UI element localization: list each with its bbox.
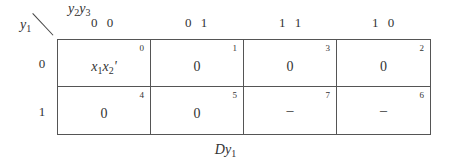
cell-value: 0 [151,106,243,122]
col-header-00: 0 0 [57,15,150,31]
caption-main: D [215,142,225,157]
row-variable-label: y1 [20,17,31,34]
kmap-cell-2: 2 0 [337,40,430,87]
cell-index: 0 [140,43,145,53]
col-header-10: 1 0 [338,15,431,31]
cell-index: 7 [326,90,331,100]
cell-value: 0 [58,106,150,122]
cell-index: 6 [420,90,425,100]
row-var-sub: 1 [26,23,31,34]
kmap-cell-0: 0 x1x2' [58,40,151,87]
corner-diagonal-line [32,13,53,36]
kmap-cell-1: 1 0 [151,40,244,87]
cell-value: 0 [151,59,243,75]
cell-value: 0 [244,59,336,75]
kmap-cell-5: 5 0 [151,87,244,134]
caption-sub: 1 [231,148,236,159]
cell-index: 2 [420,43,425,53]
cell-index: 5 [233,90,238,100]
kmap-cell-4: 4 0 [58,87,151,134]
kmap-cell-7: 7 – [244,87,337,134]
cell-value-dont-care: – [337,103,430,119]
cell-index: 4 [140,90,145,100]
kmap-caption: Dy1 [0,142,451,159]
kmap-cell-6: 6 – [337,87,430,134]
cell-value: x1x2' [58,59,150,76]
kmap-cell-3: 3 0 [244,40,337,87]
row-header-1: 1 [32,104,52,120]
row-header-0: 0 [32,56,52,72]
col-header-11: 1 1 [245,15,338,31]
karnaugh-map-grid: 0 x1x2' 1 0 3 0 2 0 4 0 5 0 7 – 6 – [57,39,431,135]
cell-index: 3 [326,43,331,53]
cell-index: 1 [233,43,238,53]
col-header-01: 0 1 [151,15,244,31]
cell-value: 0 [337,59,430,75]
cell-value-dont-care: – [244,103,336,119]
